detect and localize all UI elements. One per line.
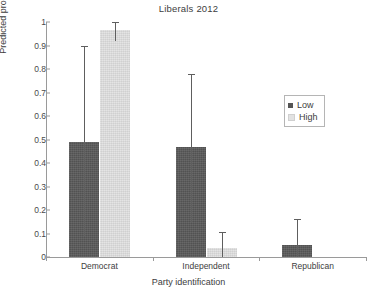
chart-title: Liberals 2012 [0,3,377,14]
chart-container: Liberals 2012 Predicted probability Part… [0,0,377,291]
error-bar-cap [219,232,226,233]
error-bar-independent-low [191,74,192,222]
legend-item-high[interactable]: High [288,111,318,123]
x-axis-tick-label: Independent [182,261,229,271]
y-axis-tick-label: 0.9 [0,41,51,51]
x-axis-line [46,257,366,258]
error-bar-democrat-high [115,22,116,41]
error-bar-republican-low [297,219,298,257]
x-axis-tick-mark [259,257,260,261]
x-axis-tick-mark [366,257,367,261]
error-bar-cap [112,22,119,23]
y-axis-tick-label: 0.2 [0,205,51,215]
x-axis-tick-label: Republican [291,261,334,271]
legend-item-low[interactable]: Low [288,99,318,111]
bar-democrat-high [100,30,130,257]
legend-label-low: Low [297,99,314,111]
error-bar-cap [294,219,301,220]
y-axis-tick-label: 0.5 [0,135,51,145]
y-axis-tick-label: 0.4 [0,158,51,168]
y-axis-tick-label: 0 [0,252,51,262]
plot-area [46,22,366,257]
chart-legend: Low High [284,95,325,127]
y-axis-tick-label: 0.3 [0,182,51,192]
error-bar-cap [188,74,195,75]
error-bar-cap [81,46,88,47]
y-axis-tick-label: 0.7 [0,88,51,98]
error-bar-democrat-low [84,46,85,238]
x-axis-label: Party identification [0,277,377,287]
y-axis-tick-label: 0.6 [0,111,51,121]
y-axis-tick-label: 0.8 [0,64,51,74]
x-axis-tick-label: Democrat [81,261,118,271]
legend-swatch-high-icon [288,114,295,121]
legend-label-high: High [299,111,318,123]
y-axis-tick-label: 1 [0,17,51,27]
legend-swatch-low-icon [288,103,293,108]
error-bar-independent-high [222,232,223,257]
x-axis-tick-mark [46,257,47,261]
y-axis-tick-label: 0.1 [0,229,51,239]
x-axis-tick-mark [153,257,154,261]
